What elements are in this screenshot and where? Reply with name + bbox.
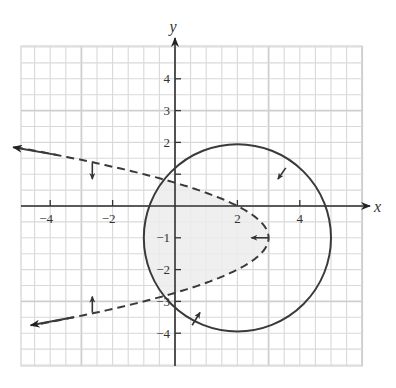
x-tick-label: 2 [234, 211, 241, 226]
x-tick-label: 4 [297, 211, 304, 226]
x-axis-label: x [373, 198, 381, 215]
y-tick-label: 4 [164, 71, 171, 86]
plot-svg: −4−224432−1−2−3−4xy [0, 0, 396, 388]
x-tick-label: −4 [39, 211, 53, 226]
y-tick-label: −2 [156, 262, 170, 277]
y-tick-label: −4 [156, 326, 170, 341]
x-tick-label: −2 [102, 211, 116, 226]
y-tick-label: 3 [164, 103, 171, 118]
y-axis-label: y [167, 18, 177, 36]
y-tick-label: 2 [164, 135, 171, 150]
y-tick-label: −3 [156, 294, 170, 309]
y-tick-label: −1 [156, 230, 170, 245]
graph-figure: −4−224432−1−2−3−4xy [0, 0, 396, 388]
